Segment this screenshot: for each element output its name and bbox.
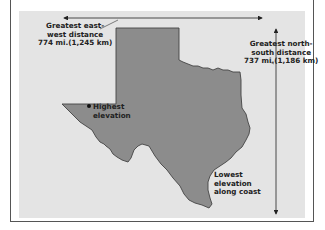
north-south-label: Greatest north- south distance 737 mi.(1…	[244, 40, 318, 66]
dot-marker-icon	[87, 104, 91, 108]
label-line: 737 mi.(1,186 km)	[244, 57, 318, 66]
label-line: elevation	[93, 112, 131, 121]
label-line: along coast	[214, 188, 261, 197]
label-line: 774 mi.(1,245 km)	[38, 39, 112, 48]
highest-elevation-label: Highest elevation	[93, 103, 131, 120]
east-west-label: Greatest east- west distance 774 mi.(1,2…	[38, 22, 112, 48]
lowest-elevation-label: Lowest elevation along coast	[214, 171, 261, 197]
